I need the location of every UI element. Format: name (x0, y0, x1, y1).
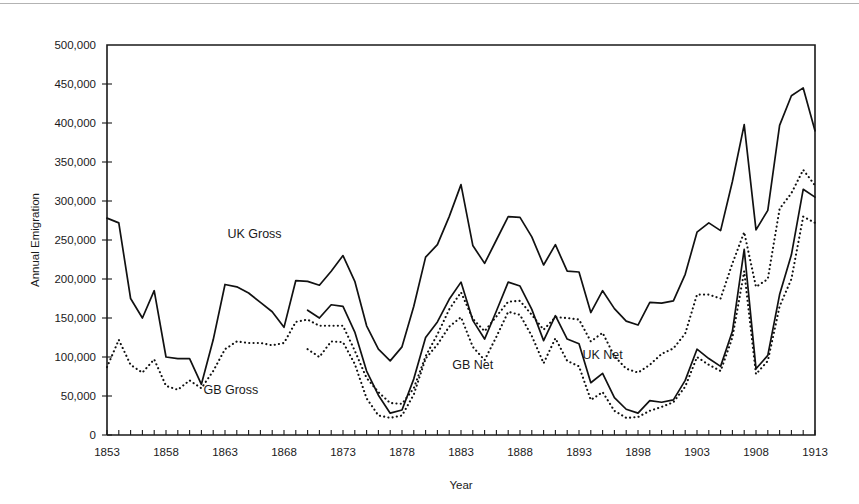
series-label-uk-gross: UK Gross (227, 227, 281, 241)
x-tick-label: 1858 (153, 446, 179, 458)
y-tick-label: 350,000 (54, 156, 96, 168)
x-tick-label: 1908 (743, 446, 769, 458)
y-tick-label: 400,000 (54, 117, 96, 129)
series-inline-labels: UK GrossGB GrossUK NetGB Net (203, 227, 623, 397)
x-tick-label: 1903 (684, 446, 710, 458)
y-tick-label: 150,000 (54, 312, 96, 324)
y-tick-label: 0 (90, 429, 96, 441)
series-label-gb-gross: GB Gross (203, 383, 258, 397)
x-tick-label: 1893 (566, 446, 592, 458)
y-tick-label: 50,000 (61, 390, 96, 402)
x-tick-label: 1868 (271, 446, 297, 458)
x-tick-label: 1898 (625, 446, 651, 458)
x-tick-label: 1888 (507, 446, 533, 458)
y-tick-label: 300,000 (54, 195, 96, 207)
x-axis-title: Year (449, 479, 472, 491)
x-tick-label: 1883 (448, 446, 474, 458)
y-axis-title: Annual Emigration (29, 193, 41, 287)
y-tick-label: 200,000 (54, 273, 96, 285)
x-tick-label: 1873 (330, 446, 356, 458)
y-tick-label: 100,000 (54, 351, 96, 363)
y-axis-ticks: 050,000100,000150,000200,000250,000300,0… (54, 39, 112, 441)
x-tick-label: 1913 (802, 446, 828, 458)
x-tick-label: 1878 (389, 446, 415, 458)
y-tick-label: 450,000 (54, 78, 96, 90)
y-tick-label: 500,000 (54, 39, 96, 51)
x-tick-label: 1863 (212, 446, 238, 458)
y-tick-label: 250,000 (54, 234, 96, 246)
series-label-gb-net: GB Net (452, 358, 494, 372)
x-tick-label: 1853 (94, 446, 120, 458)
emigration-line-chart: 050,000100,000150,000200,000250,000300,0… (0, 0, 859, 504)
series-label-uk-net: UK Net (582, 348, 623, 362)
series-line-uk-gross (107, 88, 815, 384)
chart-figure: 050,000100,000150,000200,000250,000300,0… (0, 0, 859, 504)
plot-frame (107, 45, 815, 435)
